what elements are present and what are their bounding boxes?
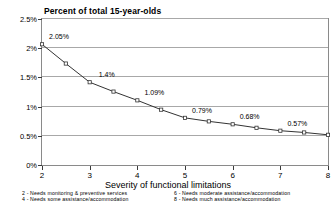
data-point-label: 0.68% [240,113,260,120]
x-axis-tick-mark [328,166,329,170]
y-axis-tick-mark [38,48,42,49]
data-point-label: 0.57% [287,120,307,127]
data-series-line [42,18,328,164]
x-axis-tick-label: 6 [230,171,234,180]
y-axis-tick-label: 0.5% [2,131,37,140]
x-axis-title: Severity of functional limitations [0,180,336,190]
chart-title: Percent of total 15-year-olds [44,6,161,16]
y-axis-tick-label: 0% [2,161,37,170]
x-axis-tick-mark [185,166,186,170]
y-axis-tick-mark [38,136,42,137]
legend-entry: 4 - Needs some assistance/accommodation [22,196,128,202]
y-axis-tick-mark [38,19,42,20]
y-axis-tick-mark [38,77,42,78]
x-axis-tick-mark [90,166,91,170]
x-axis-tick-mark [42,166,43,170]
y-axis-tick-mark [38,107,42,108]
x-axis-tick-label: 2 [40,171,44,180]
legend-entry: 8 - Needs much assistance/accommodation [174,196,290,202]
legend-column-left: 2 - Needs monitoring & preventive servic… [22,190,128,202]
data-point-label: 1.09% [144,89,164,96]
chart-container: Percent of total 15-year-olds 0%0.5%1%1.… [0,0,336,214]
y-axis-tick-label: 2.5% [2,15,37,24]
data-point-label: 0.79% [192,107,212,114]
x-axis-tick-label: 7 [278,171,282,180]
x-axis-tick-label: 3 [87,171,91,180]
x-axis-tick-mark [280,166,281,170]
y-axis-tick-label: 1.5% [2,73,37,82]
legend-column-right: 6 - Needs moderate assistance/accommodat… [174,190,290,202]
y-axis-tick-label: 1% [2,102,37,111]
y-axis-tick-label: 2% [2,44,37,53]
plot-area [41,18,329,166]
x-axis-tick-mark [233,166,234,170]
x-axis-tick-label: 5 [183,171,187,180]
data-point-label: 1.4% [99,71,115,78]
x-axis-tick-label: 4 [135,171,139,180]
x-axis-tick-label: 8 [326,171,330,180]
data-point-label: 2.05% [49,33,69,40]
x-axis-tick-mark [137,166,138,170]
